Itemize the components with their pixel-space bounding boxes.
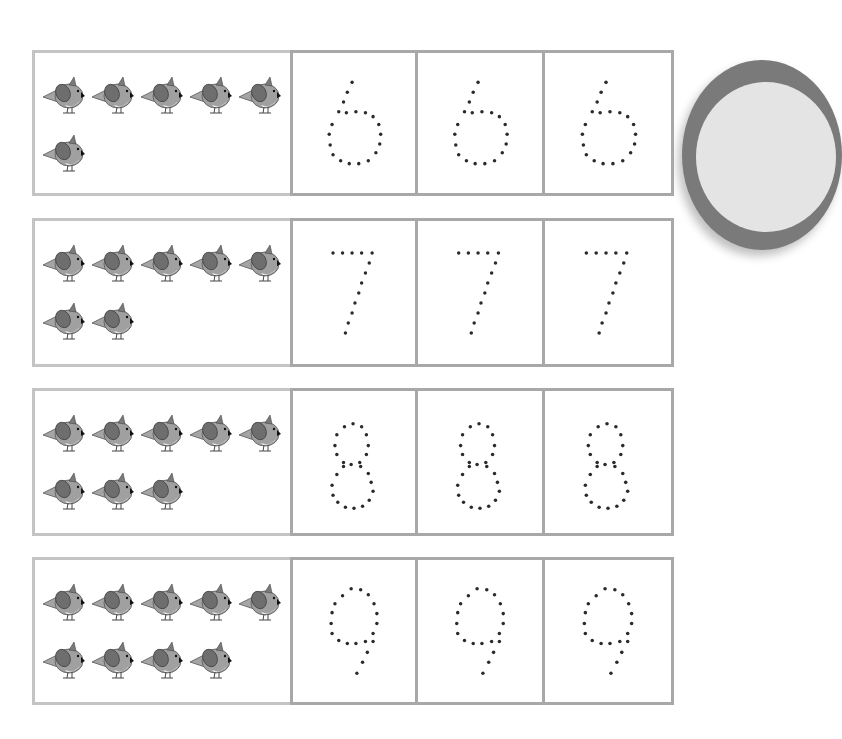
bird-icon (90, 301, 136, 341)
dotted-digit-8 (545, 391, 671, 533)
worksheet-row-7 (32, 218, 674, 367)
bird-count-box (32, 557, 290, 705)
bird-icon (90, 471, 136, 511)
trace-cell-6-3[interactable] (545, 50, 674, 196)
dotted-digit-8 (293, 391, 415, 533)
dotted-digit-6 (545, 53, 671, 193)
bird-icon (90, 243, 136, 283)
trace-cell-9-2[interactable] (418, 557, 545, 705)
bird-icon (139, 413, 185, 453)
worksheet-row-9 (32, 557, 674, 705)
trace-cell-6-1[interactable] (290, 50, 418, 196)
bird-icon (188, 243, 234, 283)
bird-icon (139, 243, 185, 283)
trace-cell-9-1[interactable] (290, 557, 418, 705)
bird-icon (41, 243, 87, 283)
dotted-digit-9 (545, 560, 671, 702)
bird-count-box (32, 388, 290, 536)
dotted-digit-8 (418, 391, 542, 533)
bird-icon (237, 75, 283, 115)
bird-count-box (32, 50, 290, 196)
bird-icon (41, 471, 87, 511)
bird-icon (41, 75, 87, 115)
bird-icon (90, 413, 136, 453)
bird-icon (188, 413, 234, 453)
bird-icon (41, 640, 87, 680)
dotted-digit-7 (418, 221, 542, 364)
bird-icon (188, 75, 234, 115)
bird-icon (90, 640, 136, 680)
trace-cell-6-2[interactable] (418, 50, 545, 196)
bird-icon (237, 582, 283, 622)
bird-icon (139, 640, 185, 680)
dotted-digit-9 (418, 560, 542, 702)
bird-icon (139, 582, 185, 622)
trace-cell-7-3[interactable] (545, 218, 674, 367)
bird-icon (90, 75, 136, 115)
trace-cell-7-1[interactable] (290, 218, 418, 367)
dotted-digit-6 (293, 53, 415, 193)
trace-cell-8-2[interactable] (418, 388, 545, 536)
bird-icon (41, 582, 87, 622)
trace-cell-8-1[interactable] (290, 388, 418, 536)
bird-count-box (32, 218, 290, 367)
bird-icon (237, 243, 283, 283)
trace-cell-7-2[interactable] (418, 218, 545, 367)
decorative-circle (682, 60, 842, 250)
dotted-digit-9 (293, 560, 415, 702)
bird-icon (41, 413, 87, 453)
bird-icon (188, 640, 234, 680)
dotted-digit-6 (418, 53, 542, 193)
worksheet-row-8 (32, 388, 674, 536)
bird-icon (237, 413, 283, 453)
dotted-digit-7 (293, 221, 415, 364)
bird-icon (139, 75, 185, 115)
worksheet-row-6 (32, 50, 674, 196)
bird-icon (41, 133, 87, 173)
bird-icon (139, 471, 185, 511)
dotted-digit-7 (545, 221, 671, 364)
bird-icon (90, 582, 136, 622)
trace-cell-9-3[interactable] (545, 557, 674, 705)
bird-icon (188, 582, 234, 622)
bird-icon (41, 301, 87, 341)
trace-cell-8-3[interactable] (545, 388, 674, 536)
